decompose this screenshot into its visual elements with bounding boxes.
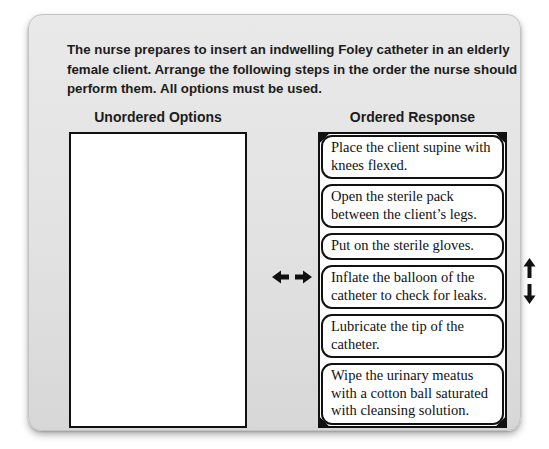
ordered-response-list: Place the client supine with knees flexe… <box>318 132 507 428</box>
ordered-option-card[interactable]: Lubricate the tip of the catheter. <box>321 314 504 358</box>
ordered-option-text: Lubricate the tip of the catheter. <box>331 318 464 352</box>
ordered-option-text: Open the sterile pack between the client… <box>331 188 477 222</box>
ordered-option-text: Put on the sterile gloves. <box>331 237 474 253</box>
ordered-option-text: Wipe the urinary meatus with a cotton ba… <box>331 367 488 418</box>
move-up-down-icon <box>522 258 537 304</box>
ordered-response-header: Ordered Response <box>318 109 507 125</box>
ordered-option-card[interactable]: Place the client supine with knees flexe… <box>321 135 504 179</box>
ordered-option-card[interactable]: Wipe the urinary meatus with a cotton ba… <box>321 363 504 425</box>
ordered-option-card[interactable]: Inflate the balloon of the catheter to c… <box>321 265 504 309</box>
question-instruction: All options must be used. <box>160 81 322 96</box>
ordered-option-text: Place the client supine with knees flexe… <box>331 139 490 173</box>
ordered-option-card[interactable]: Open the sterile pack between the client… <box>321 184 504 228</box>
question-card: The nurse prepares to insert an indwelli… <box>28 14 521 431</box>
unordered-options-header: Unordered Options <box>69 109 247 125</box>
unordered-options-dropzone[interactable] <box>69 132 247 428</box>
ordered-option-text: Inflate the balloon of the catheter to c… <box>331 269 487 303</box>
ordered-option-card[interactable]: Put on the sterile gloves. <box>321 233 504 260</box>
question-text: The nurse prepares to insert an indwelli… <box>67 40 539 99</box>
move-left-right-icon <box>272 269 312 285</box>
